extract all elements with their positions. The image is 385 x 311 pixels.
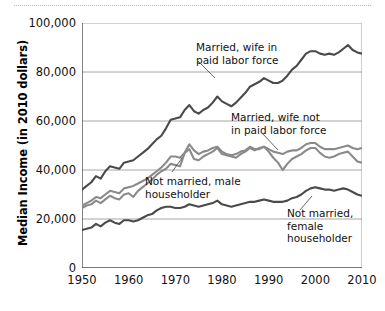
y-axis-tick-label: 80,000 <box>16 65 76 79</box>
chart-figure: Median Income (in 2010 dollars) 100,0008… <box>0 0 385 311</box>
series-annotation-not-married-female-householder: Not married, female householder <box>287 207 353 245</box>
y-axis-tick-label: 20,000 <box>16 212 76 226</box>
series-annotation-married-wife-not-in-labor-force: Married, wife not in paid labor force <box>231 111 326 136</box>
y-axis-tick-label: 100,000 <box>16 16 76 30</box>
y-axis-tick-label: 60,000 <box>16 114 76 128</box>
series-annotation-married-wife-in-labor-force: Married, wife in paid labor force <box>196 41 279 66</box>
y-axis-tick-label: 40,000 <box>16 163 76 177</box>
y-axis-tick-labels: 100,00080,00060,00040,00020,0000 <box>12 0 76 311</box>
x-axis-tick-label: 2010 <box>332 273 385 287</box>
series-annotation-not-married-male-householder: Not married, male householder <box>145 175 241 200</box>
